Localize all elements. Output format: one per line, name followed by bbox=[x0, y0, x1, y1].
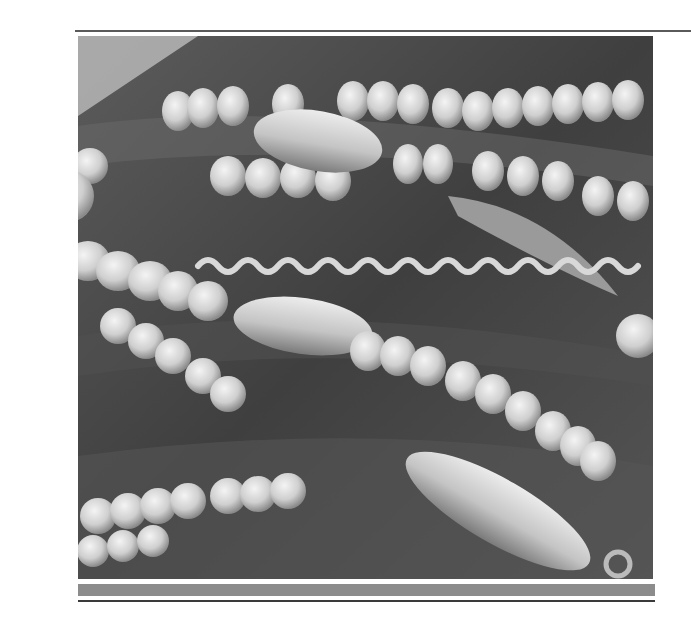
micrograph-image: Scanning electron micrograph of filament… bbox=[78, 36, 653, 579]
top-rule bbox=[75, 30, 691, 32]
bottom-rule bbox=[78, 600, 655, 602]
gray-band bbox=[78, 584, 655, 596]
